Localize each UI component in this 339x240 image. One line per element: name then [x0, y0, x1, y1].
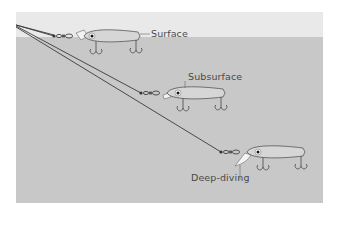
subsurface-label: Subsurface	[188, 71, 242, 82]
water-body	[16, 37, 323, 203]
deep-diving-label: Deep-diving	[191, 172, 250, 183]
surface-label: Surface	[151, 28, 188, 39]
